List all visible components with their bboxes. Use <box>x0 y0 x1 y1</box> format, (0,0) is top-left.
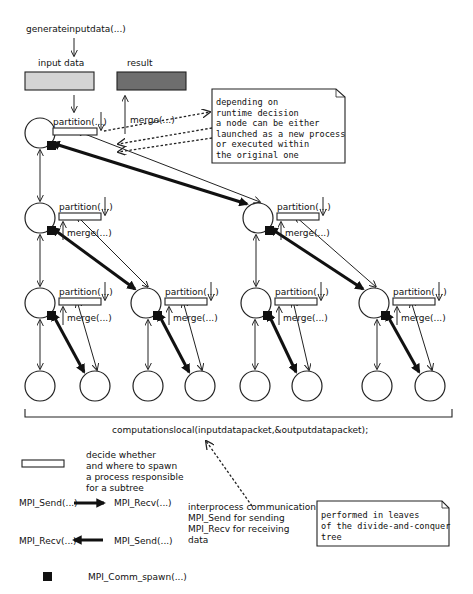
mpi-comm-spawn-square <box>47 311 56 320</box>
mpi-comm-spawn-square <box>265 226 274 235</box>
legend-text: MPI_Send for sending <box>188 513 285 523</box>
partition-box <box>59 298 101 305</box>
note-line: the original one <box>216 150 299 160</box>
mpi-comm-spawn-square <box>153 311 162 320</box>
legend-spawn-square <box>43 572 52 581</box>
runtime-decision-note: depending on runtime decision a node can… <box>212 89 345 163</box>
input-data-box <box>25 72 94 90</box>
mpi-recv-arrow <box>183 301 202 370</box>
legend-send-label: MPI_Send(...) <box>114 536 173 546</box>
partition-label: partition(...) <box>53 117 107 127</box>
legend-text: and where to spawn <box>86 461 177 471</box>
note-line: of the divide-and-conquer <box>321 521 450 531</box>
partition-box <box>275 298 317 305</box>
note-line: runtime decision <box>216 108 299 118</box>
merge-label: merge(...) <box>130 115 175 125</box>
mpi-recv-arrow <box>411 301 432 370</box>
merge-label: merge(...) <box>67 313 112 323</box>
merge-label: merge(...) <box>173 313 218 323</box>
legend-partition-box <box>22 460 64 467</box>
note-line: tree <box>321 532 342 542</box>
merge-label: merge(...) <box>67 228 112 238</box>
mpi-recv-arrow <box>293 301 309 370</box>
leaves-note: performed in leaves of the divide-and-co… <box>317 501 450 546</box>
legend-text: a process responsible <box>86 472 184 482</box>
legend-text: for a subtree <box>86 483 144 493</box>
legend-recv-label: MPI_Recv(...) <box>114 498 172 508</box>
leaves-note-pointer <box>206 441 252 506</box>
partition-box <box>393 298 435 305</box>
generate-input-label: generateinputdata(...) <box>26 24 126 34</box>
legend-text: data <box>188 535 208 545</box>
legend-text: decide whether <box>86 450 156 460</box>
partition-box <box>59 213 101 220</box>
mpi-recv-arrow <box>77 301 97 370</box>
leaf-node <box>415 371 445 401</box>
note-pointer <box>118 128 212 144</box>
note-line: a node can be either <box>216 118 319 128</box>
leaf-node <box>185 371 215 401</box>
legend-recv-label: MPI_Recv(...) <box>19 536 77 546</box>
mpi-comm-spawn-square <box>263 311 272 320</box>
note-line: launched as a new process <box>216 129 345 139</box>
leaf-node <box>80 371 110 401</box>
leaf-node <box>362 371 392 401</box>
note-pointer <box>118 138 212 152</box>
leaf-node <box>133 371 163 401</box>
mpi-comm-spawn-square <box>381 311 390 320</box>
divide-and-conquer-diagram: generateinputdata(...) input data result… <box>0 0 473 594</box>
legend-text: interprocess communication <box>188 502 316 512</box>
partition-box <box>53 128 97 135</box>
legend-send-label: MPI_Send(...) <box>19 498 78 508</box>
partition-box <box>165 298 207 305</box>
leaf-node <box>240 371 270 401</box>
legend-text: MPI_Recv for receiving <box>188 524 289 534</box>
input-data-label: input data <box>38 58 84 68</box>
result-box <box>117 72 186 90</box>
leaves-bracket <box>25 409 452 417</box>
merge-label: merge(...) <box>401 313 446 323</box>
mpi-comm-spawn-square <box>47 226 56 235</box>
leaf-node <box>25 371 55 401</box>
legend-spawn-label: MPI_Comm_spawn(...) <box>88 572 187 582</box>
leaf-node <box>292 371 322 401</box>
result-label: result <box>127 58 153 68</box>
merge-label: merge(...) <box>285 228 330 238</box>
note-line: or executed within <box>216 139 309 149</box>
partition-box <box>277 213 319 220</box>
merge-label: merge(...) <box>283 313 328 323</box>
note-line: performed in leaves <box>321 510 419 520</box>
note-line: depending on <box>216 97 278 107</box>
leaf-computation-label: computationslocal(inputdatapacket,&outpu… <box>112 425 368 435</box>
mpi-comm-spawn-square <box>47 141 56 150</box>
mpi-recv-arrow <box>77 216 148 287</box>
